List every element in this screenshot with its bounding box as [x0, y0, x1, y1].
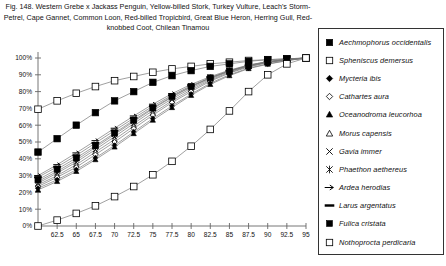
chart-plot-area: 0%10%20%30%40%50%60%70%80%90%100%62.5656… — [0, 44, 316, 266]
y-tick-label: 30% — [19, 172, 32, 179]
chart-legend: Aechmophorus occidentalisSpheniscus deme… — [318, 28, 444, 255]
legend-item[interactable]: Larus argentatus — [323, 197, 440, 215]
y-tick-label: 80% — [19, 88, 32, 95]
x-tick-label: 95 — [302, 231, 310, 238]
x-tick-label: 87.5 — [242, 231, 255, 238]
legend-item[interactable]: Cathartes aura — [323, 88, 440, 106]
legend-item[interactable]: Aechmophorus occidentalis — [323, 33, 440, 51]
y-tick-label: 100% — [15, 54, 32, 61]
open-square-icon — [323, 54, 336, 67]
legend-item[interactable]: Nothoprocta perdicaria — [323, 233, 440, 251]
legend-item[interactable]: Ardea herodias — [323, 179, 440, 197]
filled-triangle-icon — [323, 108, 336, 121]
legend-item[interactable]: Morus capensis — [323, 124, 440, 142]
cross-x-icon — [323, 145, 336, 158]
legend-item-label: Larus argentatus — [339, 201, 396, 210]
legend-item-label: Ardea herodias — [339, 183, 390, 192]
asterisk-icon — [323, 163, 336, 176]
y-tick-label: 10% — [19, 206, 32, 213]
x-tick-label: 77.5 — [166, 231, 179, 238]
open-square-small-icon — [323, 236, 336, 249]
legend-item[interactable]: Phaethon aethereus — [323, 160, 440, 178]
series-12 — [35, 55, 310, 230]
filled-diamond-icon — [323, 72, 336, 85]
legend-item-label: Fulica cristata — [339, 219, 386, 228]
line-chart-svg: 0%10%20%30%40%50%60%70%80%90%100%62.5656… — [0, 44, 316, 266]
legend-item-label: Gavia immer — [339, 147, 382, 156]
filled-square-icon — [323, 36, 336, 49]
legend-item[interactable]: Fulica cristata — [323, 215, 440, 233]
figure-caption: Fig. 148. Western Grebe x Jackass Pengui… — [0, 2, 316, 34]
legend-item-label: Morus capensis — [339, 129, 392, 138]
legend-item-label: Cathartes aura — [339, 92, 389, 101]
open-diamond-icon — [323, 90, 336, 103]
x-tick-label: 65 — [73, 231, 81, 238]
x-tick-label: 90 — [264, 231, 272, 238]
legend-item-label: Spheniscus demersus — [339, 56, 413, 65]
dash-arrow-icon — [323, 181, 336, 194]
x-tick-label: 62.5 — [51, 231, 64, 238]
legend-item-label: Phaethon aethereus — [339, 165, 407, 174]
y-tick-label: 70% — [19, 105, 32, 112]
legend-item-label: Mycteria ibis — [339, 74, 381, 83]
y-tick-label: 20% — [19, 189, 32, 196]
x-tick-label: 70 — [111, 231, 119, 238]
legend-item-label: Oceanodroma leucorhoa — [339, 110, 422, 119]
x-tick-label: 92.5 — [280, 231, 293, 238]
legend-item[interactable]: Gavia immer — [323, 142, 440, 160]
y-tick-label: 50% — [19, 138, 32, 145]
x-tick-label: 72.5 — [127, 231, 140, 238]
x-tick-label: 67.5 — [89, 231, 102, 238]
filled-square-small-icon — [323, 217, 336, 230]
legend-item[interactable]: Oceanodroma leucorhoa — [323, 106, 440, 124]
x-tick-label: 75 — [149, 231, 157, 238]
dash-icon — [323, 199, 336, 212]
legend-item-label: Aechmophorus occidentalis — [339, 38, 431, 47]
y-tick-label: 90% — [19, 71, 32, 78]
y-tick-label: 40% — [19, 155, 32, 162]
x-tick-label: 80 — [187, 231, 195, 238]
legend-item[interactable]: Spheniscus demersus — [323, 51, 440, 69]
x-tick-label: 85 — [226, 231, 234, 238]
y-tick-label: 60% — [19, 122, 32, 129]
y-tick-label: 0% — [22, 222, 32, 229]
open-triangle-icon — [323, 127, 336, 140]
legend-item[interactable]: Mycteria ibis — [323, 69, 440, 87]
legend-item-label: Nothoprocta perdicaria — [339, 238, 415, 247]
x-tick-label: 82.5 — [204, 231, 217, 238]
